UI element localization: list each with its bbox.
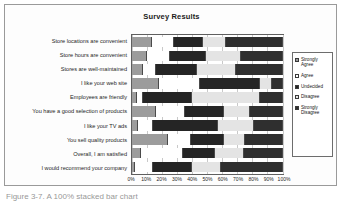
- table-row: [132, 148, 283, 159]
- bar-segment: [272, 78, 283, 89]
- table-row: [132, 134, 283, 145]
- bar-segment: [156, 106, 185, 117]
- bar-segment: [215, 148, 244, 159]
- bar-segment: [135, 162, 153, 173]
- table-row: [132, 106, 283, 117]
- axis-tick-label: 40%: [187, 176, 197, 182]
- legend-swatch-icon: [295, 95, 299, 99]
- bar-segment: [174, 37, 203, 48]
- table-row: [132, 51, 283, 62]
- category-label: You sell quality products: [11, 133, 130, 147]
- bar-segment: [152, 37, 175, 48]
- legend-label: Agree: [301, 73, 313, 78]
- bar-segment: [191, 134, 224, 145]
- table-row: [132, 37, 283, 48]
- chart-figure: Survey Results Store locations are conve…: [4, 4, 337, 186]
- figure-page: Survey Results Store locations are conve…: [0, 0, 343, 216]
- category-label: Employees are friendly: [11, 90, 130, 104]
- bar-segment: [183, 148, 215, 159]
- chart-legend: Strongly AgreeAgreeUndecidedDisagreeStro…: [292, 52, 333, 157]
- bar-series-container: [132, 35, 283, 174]
- plot-wrapper: Store locations are convenientStore hour…: [5, 5, 338, 187]
- bar-segment: [192, 162, 221, 173]
- legend-swatch-icon: [295, 58, 299, 62]
- bar-segment: [168, 134, 191, 145]
- figure-caption: Figure 3-7. A 100% stacked bar chart: [6, 192, 336, 201]
- table-row: [132, 78, 283, 89]
- category-label: I like your TV ads: [11, 119, 130, 133]
- axis-tick-label: 70%: [233, 176, 243, 182]
- category-label: Store hours are convenient: [11, 48, 130, 62]
- bar-segment: [132, 37, 152, 48]
- bar-segment: [206, 51, 241, 62]
- legend-item[interactable]: Agree: [295, 73, 330, 78]
- bar-segment: [143, 92, 193, 103]
- bar-segment: [153, 120, 218, 131]
- bar-segment: [241, 51, 283, 62]
- bar-segment: [143, 64, 157, 75]
- bar-segment: [224, 106, 250, 117]
- bar-segment: [200, 78, 260, 89]
- bar-segment: [244, 148, 283, 159]
- legend-item[interactable]: Disagree: [295, 94, 330, 99]
- bar-segment: [132, 106, 156, 117]
- legend-label: Strongly Disagree: [301, 105, 330, 115]
- category-label: Store locations are convenient: [11, 34, 130, 48]
- category-label: Overall, I am satisfied: [11, 147, 130, 161]
- bar-segment: [218, 120, 254, 131]
- category-label: I like your web site: [11, 76, 130, 90]
- legend-label: Strongly Agree: [301, 57, 330, 67]
- bar-segment: [141, 148, 183, 159]
- axis-tick-label: 90%: [264, 176, 274, 182]
- bar-segment: [197, 64, 236, 75]
- bar-segment: [224, 134, 245, 145]
- bar-segment: [147, 51, 170, 62]
- legend-swatch-icon: [295, 106, 299, 110]
- plot-area: [131, 34, 284, 175]
- legend-swatch-icon: [295, 74, 299, 78]
- axis-tick-label: 80%: [248, 176, 258, 182]
- bar-segment: [260, 92, 283, 103]
- bar-segment: [226, 37, 283, 48]
- legend-label: Undecided: [301, 84, 323, 89]
- axis-tick-label: 50%: [202, 176, 212, 182]
- table-row: [132, 162, 283, 173]
- bar-segment: [203, 37, 226, 48]
- category-label: You have a good selection of products: [11, 104, 130, 118]
- bar-segment: [153, 162, 192, 173]
- category-axis-labels: Store locations are convenientStore hour…: [11, 34, 130, 175]
- axis-tick-label: 30%: [172, 176, 182, 182]
- axis-tick-label: 0%: [127, 176, 134, 182]
- bar-segment: [132, 148, 141, 159]
- legend-item[interactable]: Strongly Disagree: [295, 105, 330, 115]
- bar-segment: [132, 64, 143, 75]
- legend-item[interactable]: Strongly Agree: [295, 57, 330, 67]
- legend-item[interactable]: Undecided: [295, 84, 330, 89]
- table-row: [132, 92, 283, 103]
- bar-segment: [132, 78, 159, 89]
- bar-segment: [138, 120, 153, 131]
- bar-segment: [245, 134, 283, 145]
- value-axis-labels: 0%10%20%30%40%50%60%70%80%90%100%: [131, 176, 284, 186]
- bar-segment: [221, 162, 283, 173]
- bar-segment: [159, 78, 200, 89]
- axis-tick-label: 20%: [157, 176, 167, 182]
- bar-segment: [132, 51, 147, 62]
- axis-tick-label: 60%: [218, 176, 228, 182]
- bar-segment: [170, 51, 206, 62]
- table-row: [132, 120, 283, 131]
- bar-segment: [250, 106, 283, 117]
- axis-tick-label: 10%: [141, 176, 151, 182]
- bar-segment: [260, 78, 272, 89]
- bar-segment: [156, 64, 197, 75]
- bar-segment: [192, 92, 260, 103]
- legend-swatch-icon: [295, 85, 299, 89]
- legend-label: Disagree: [301, 94, 319, 99]
- bar-segment: [254, 120, 283, 131]
- category-label: Stores are well-maintained: [11, 62, 130, 76]
- axis-tick-label: 100%: [278, 176, 291, 182]
- table-row: [132, 64, 283, 75]
- bar-segment: [132, 134, 168, 145]
- bar-segment: [185, 106, 224, 117]
- category-label: I would recommend your company: [11, 161, 130, 175]
